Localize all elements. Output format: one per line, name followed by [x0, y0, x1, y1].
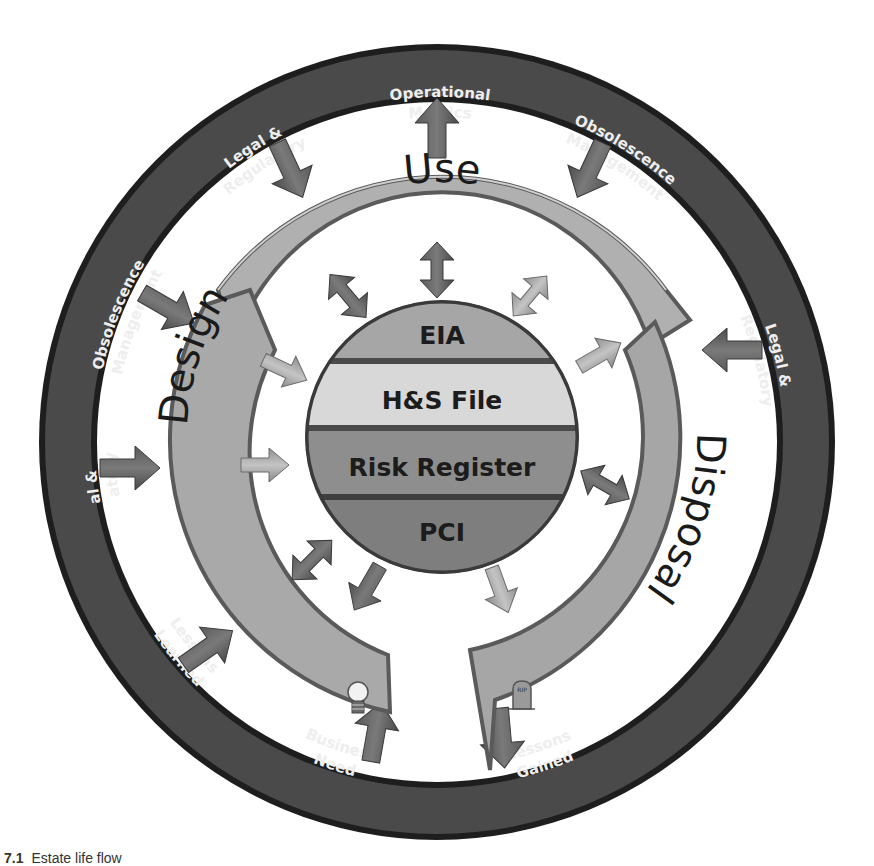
- svg-text:RIP: RIP: [517, 686, 527, 693]
- phase-label-use: Use: [401, 145, 482, 194]
- core-label-risk-register: Risk Register: [349, 453, 536, 482]
- gravestone-icon: RIP: [509, 681, 535, 709]
- figure-caption: 7.1Estate life flow: [4, 850, 122, 866]
- core-label-pci: PCI: [419, 518, 465, 547]
- figure-caption-text: Estate life flow: [31, 850, 121, 866]
- figure-number: 7.1: [4, 850, 23, 866]
- core-label-hs-file: H&S File: [382, 386, 503, 415]
- core-label-eia: EIA: [419, 321, 465, 350]
